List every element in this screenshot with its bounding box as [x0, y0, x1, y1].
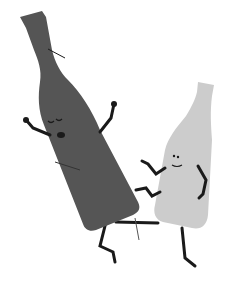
illustration	[0, 0, 233, 282]
beer-bottle	[142, 82, 214, 266]
wine-bottle	[20, 11, 160, 262]
